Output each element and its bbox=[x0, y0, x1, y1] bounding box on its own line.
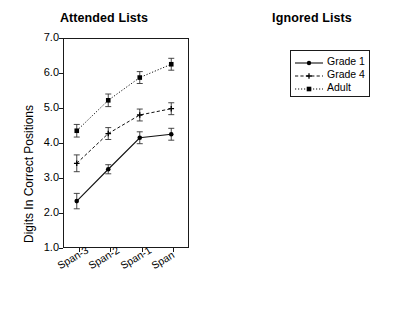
data-point-marker bbox=[168, 106, 174, 112]
data-point-marker bbox=[137, 112, 143, 118]
series-layer bbox=[0, 0, 208, 310]
figure-canvas: Digits In Correct Positions Attended Lis… bbox=[0, 0, 416, 310]
data-point-marker bbox=[106, 167, 111, 172]
data-point-marker bbox=[74, 128, 79, 133]
data-point-marker bbox=[106, 98, 111, 103]
series-line bbox=[77, 134, 172, 201]
series-grade-1 bbox=[74, 128, 175, 209]
series-line bbox=[77, 64, 172, 131]
series-adult bbox=[74, 58, 175, 137]
panel-ignored-lists: Ignored Lists Grade 1Grade 4Adult 7.06.0… bbox=[208, 0, 416, 310]
data-point-marker bbox=[169, 62, 174, 67]
data-point-marker bbox=[74, 199, 79, 204]
data-point-marker bbox=[169, 132, 174, 137]
series-grade-4 bbox=[74, 103, 175, 172]
data-point-marker bbox=[137, 75, 142, 80]
data-point-marker bbox=[137, 135, 142, 140]
series-layer bbox=[208, 0, 416, 310]
panel-attended-lists: Attended Lists 7.06.05.04.03.02.01.0Span… bbox=[0, 0, 208, 310]
